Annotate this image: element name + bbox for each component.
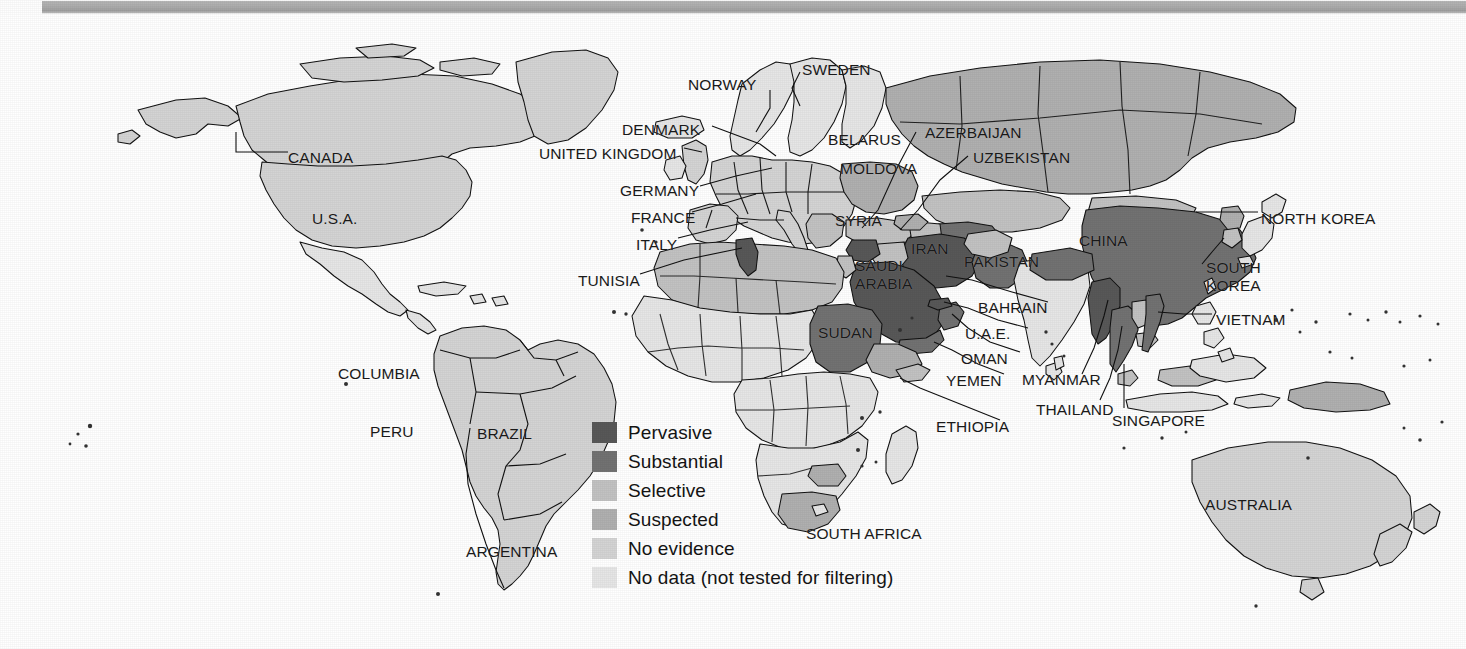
map-label-sudan: SUDAN <box>818 324 873 341</box>
map-label-germany: GERMANY <box>620 182 699 199</box>
legend-swatch-icon <box>592 422 617 443</box>
map-label-china: CHINA <box>1079 232 1128 249</box>
map-label-columbia: COLUMBIA <box>338 365 420 382</box>
legend-swatch-icon <box>592 451 617 472</box>
legend-swatch-icon <box>592 509 617 530</box>
map-label-uzbekistan: UZBEKISTAN <box>973 149 1070 166</box>
map-label-norway: NORWAY <box>688 76 756 93</box>
map-label-myanmar: MYANMAR <box>1022 371 1101 388</box>
legend-label: Selective <box>628 480 706 502</box>
map-label-argentina: ARGENTINA <box>466 543 557 560</box>
map-label-belarus: BELARUS <box>828 131 901 148</box>
map-label-saudi-arabia: SAUDI ARABIA <box>855 257 912 293</box>
legend-row-suspected[interactable]: Suspected <box>592 505 893 534</box>
legend-row-selective[interactable]: Selective <box>592 476 893 505</box>
map-label-sweden: SWEDEN <box>802 61 871 78</box>
map-label-pakistan: PAKISTAN <box>964 253 1039 270</box>
legend-label: No evidence <box>628 538 735 560</box>
map-label-singapore: SINGAPORE <box>1112 412 1205 429</box>
map-label-australia: AUSTRALIA <box>1205 496 1292 513</box>
legend-swatch-icon <box>592 480 617 501</box>
map-label-thailand: THAILAND <box>1036 401 1113 418</box>
map-label-brazil: BRAZIL <box>477 425 532 442</box>
map-label-azerbaijan: AZERBAIJAN <box>925 124 1022 141</box>
map-label-u-s-a: U.S.A. <box>312 210 357 227</box>
map-label-bahrain: BAHRAIN <box>978 299 1048 316</box>
map-label-yemen: YEMEN <box>946 372 1002 389</box>
map-label-tunisia: TUNISIA <box>578 272 640 289</box>
legend-row-no-data-not-tested-for-filtering[interactable]: No data (not tested for filtering) <box>592 563 893 592</box>
legend-row-no-evidence[interactable]: No evidence <box>592 534 893 563</box>
world-map[interactable]: .c { stroke:#111; stroke-width:1.05; str… <box>0 14 1466 649</box>
page-root: .c { stroke:#111; stroke-width:1.05; str… <box>0 0 1466 649</box>
legend-label: Substantial <box>628 451 723 473</box>
map-label-denmark: DENMARK <box>622 121 700 138</box>
legend-label: Suspected <box>628 509 719 531</box>
map-label-south-korea: SOUTH KOREA <box>1206 259 1261 295</box>
map-label-syria: SYRIA <box>835 212 882 229</box>
map-label-north-korea: NORTH KOREA <box>1261 210 1376 227</box>
legend-swatch-icon <box>592 567 617 588</box>
map-label-oman: OMAN <box>961 350 1008 367</box>
legend-row-pervasive[interactable]: Pervasive <box>592 418 893 447</box>
map-label-vietnam: VIETNAM <box>1216 311 1286 328</box>
legend-swatch-icon <box>592 538 617 559</box>
map-label-united-kingdom: UNITED KINGDOM <box>539 145 676 162</box>
legend-label: Pervasive <box>628 422 712 444</box>
map-label-italy: ITALY <box>636 236 677 253</box>
map-label-iran: IRAN <box>911 240 948 257</box>
legend-label: No data (not tested for filtering) <box>628 567 893 589</box>
legend-row-substantial[interactable]: Substantial <box>592 447 893 476</box>
map-label-moldova: MOLDOVA <box>840 160 917 177</box>
map-label-peru: PERU <box>370 423 413 440</box>
map-label-canada: CANADA <box>288 149 353 166</box>
map-label-u-a-e: U.A.E. <box>965 325 1010 342</box>
scan-artifact-bar <box>42 1 1466 13</box>
map-label-france: FRANCE <box>631 209 695 226</box>
map-label-ethiopia: ETHIOPIA <box>936 418 1009 435</box>
filtering-level-legend[interactable]: PervasiveSubstantialSelectiveSuspectedNo… <box>592 418 893 592</box>
